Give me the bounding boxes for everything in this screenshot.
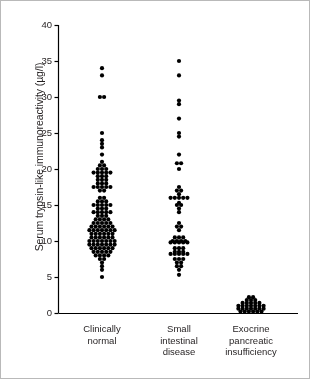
y-tick-label: 5 xyxy=(28,271,52,282)
x-category-label-line: Clinically xyxy=(59,323,145,335)
x-category-label-2: Exocrinepancreaticinsufficiency xyxy=(208,323,294,358)
y-tick-label: 30 xyxy=(28,91,52,102)
y-axis-title: Serum trypsin-like immunoreactivity (µg/… xyxy=(33,27,45,287)
x-category-label-line: normal xyxy=(59,335,145,347)
y-tick-label: 20 xyxy=(28,163,52,174)
x-category-label-0: Clinicallynormal xyxy=(59,323,145,346)
x-category-label-line: Exocrine xyxy=(208,323,294,335)
y-tick-label: 0 xyxy=(28,307,52,318)
x-category-label-line: pancreatic xyxy=(208,335,294,347)
figure-panel: Serum trypsin-like immunoreactivity (µg/… xyxy=(0,0,310,379)
y-tick-label: 15 xyxy=(28,199,52,210)
y-tick-label: 35 xyxy=(28,55,52,66)
y-tick-label: 25 xyxy=(28,127,52,138)
x-category-label-line: insufficiency xyxy=(208,346,294,358)
y-tick-label: 10 xyxy=(28,235,52,246)
y-tick-label: 40 xyxy=(28,19,52,30)
